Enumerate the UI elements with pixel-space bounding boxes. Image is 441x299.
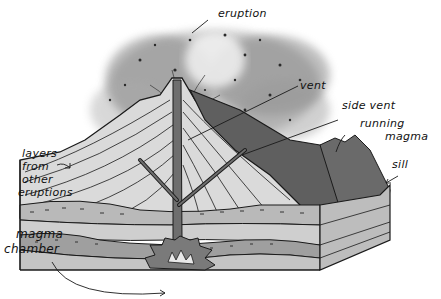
main-vent bbox=[173, 80, 182, 240]
label-magma: magma bbox=[385, 131, 428, 143]
magma-chamber bbox=[145, 236, 215, 270]
volcano-illustration bbox=[0, 0, 441, 299]
label-layers-4: eruptions bbox=[18, 187, 73, 199]
label-eruption: eruption bbox=[218, 8, 267, 20]
label-magma-chamber-2: chamber bbox=[4, 243, 59, 255]
volcano-diagram: eruption vent side vent running magma si… bbox=[0, 0, 441, 299]
label-sill: sill bbox=[392, 159, 408, 171]
label-side-vent: side vent bbox=[342, 100, 395, 112]
label-layers-3: other bbox=[22, 174, 53, 186]
label-layers-1: layers bbox=[22, 148, 57, 160]
label-vent: vent bbox=[300, 80, 326, 92]
label-magma-chamber-1: magma bbox=[16, 228, 63, 240]
label-running: running bbox=[360, 118, 405, 130]
label-layers-2: from bbox=[22, 161, 49, 173]
